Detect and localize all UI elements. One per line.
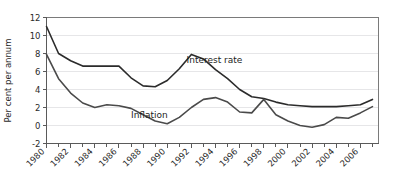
y-axis-title: Per cent per annum (3, 38, 13, 122)
chart-container: 121086420-2 1980198219841986198819901992… (0, 0, 397, 179)
y-tick-label: 2 (35, 103, 40, 113)
economic-indicators-line-chart: 121086420-2 1980198219841986198819901992… (0, 0, 397, 179)
series-label-inflation: Inflation (131, 110, 168, 120)
y-tick-label: 6 (35, 67, 40, 77)
y-tick-label: 4 (35, 85, 40, 95)
y-tick-label: 10 (30, 31, 41, 41)
y-tick-label: 0 (35, 121, 40, 131)
axis-titles-group: Per cent per annum (3, 38, 13, 122)
series-label-interest-rate: Interest rate (187, 55, 243, 65)
y-tick-label: 12 (30, 13, 41, 23)
y-tick-label: 8 (35, 49, 40, 59)
